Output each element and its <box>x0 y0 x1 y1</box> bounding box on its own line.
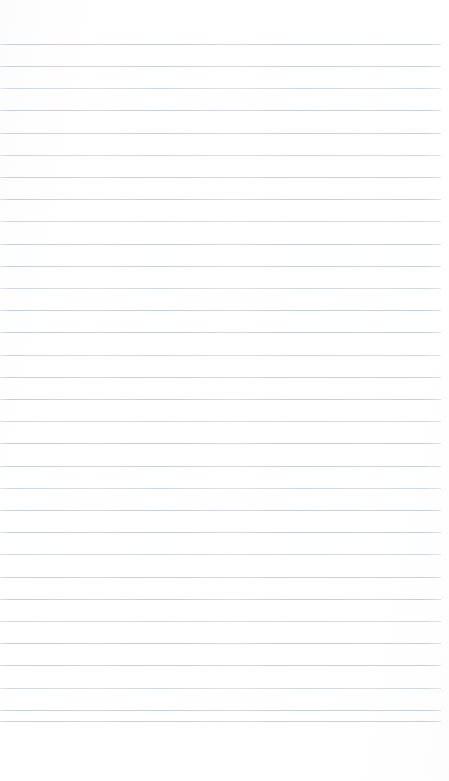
rule-line <box>0 421 441 422</box>
rule-line <box>0 244 441 245</box>
rule-line <box>0 199 441 200</box>
rule-line <box>0 155 441 156</box>
rule-line <box>0 721 441 722</box>
rule-line <box>0 532 441 533</box>
rule-line <box>0 288 441 289</box>
rule-line <box>0 621 441 622</box>
rule-line <box>0 266 441 267</box>
rule-line <box>0 399 441 400</box>
rule-line <box>0 177 441 178</box>
rule-line <box>0 688 441 689</box>
rule-line <box>0 643 441 644</box>
paper-surface <box>0 0 449 781</box>
rule-line <box>0 88 441 89</box>
rule-line <box>0 710 441 711</box>
rule-line <box>0 466 441 467</box>
rule-line <box>0 577 441 578</box>
rule-line <box>0 665 441 666</box>
rule-line <box>0 554 441 555</box>
rule-line <box>0 355 441 356</box>
rule-line <box>0 488 441 489</box>
rule-line <box>0 510 441 511</box>
rule-line <box>0 310 441 311</box>
rule-line <box>0 110 441 111</box>
scanned-page <box>0 0 449 781</box>
rule-line <box>0 44 441 45</box>
rule-line <box>0 332 441 333</box>
rule-line <box>0 221 441 222</box>
rule-line <box>0 133 441 134</box>
rule-line <box>0 443 441 444</box>
rule-line <box>0 377 441 378</box>
rule-line <box>0 66 441 67</box>
rule-line <box>0 599 441 600</box>
